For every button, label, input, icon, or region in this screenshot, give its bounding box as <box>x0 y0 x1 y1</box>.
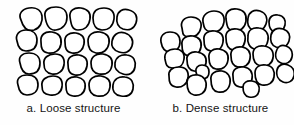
dense-structure-panel: b. Dense structure <box>147 0 294 125</box>
loose-grain-group <box>16 7 136 96</box>
dense-grain-group <box>161 9 294 97</box>
dense-structure-diagram <box>147 0 294 100</box>
loose-structure-diagram <box>0 0 147 100</box>
dense-structure-caption: b. Dense structure <box>147 101 294 115</box>
soil-structure-figure: a. Loose structure <box>0 0 294 125</box>
loose-structure-caption: a. Loose structure <box>0 101 147 115</box>
loose-structure-panel: a. Loose structure <box>0 0 147 125</box>
